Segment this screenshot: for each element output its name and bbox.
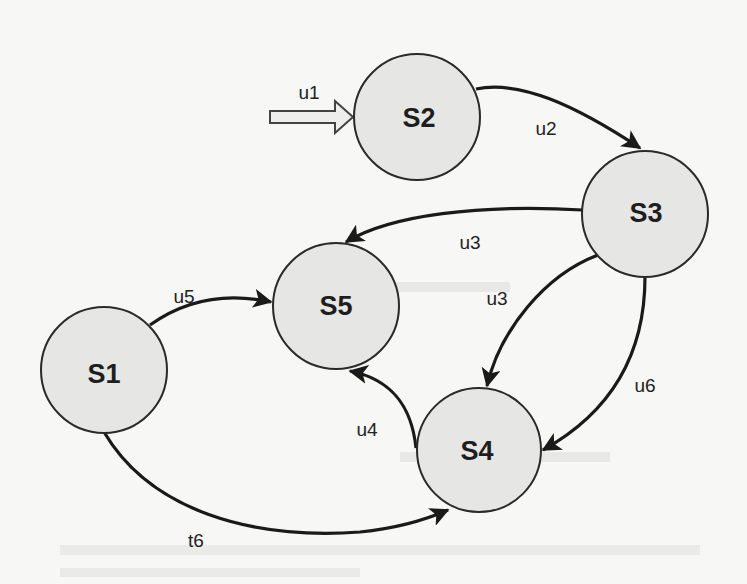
edge-label-u6: u6 xyxy=(634,375,655,396)
edge-label-u4: u4 xyxy=(356,419,378,440)
node-label-s3: S3 xyxy=(629,198,662,228)
edge-s3-s4-u6 xyxy=(543,277,645,450)
edge-label-u3-inner: u3 xyxy=(486,288,507,309)
node-label-s4: S4 xyxy=(460,436,493,466)
node-label-s5: S5 xyxy=(319,291,352,321)
edge-s3-s4-u3 xyxy=(487,255,598,386)
node-s2[interactable]: S2 xyxy=(354,54,480,180)
edge-label-u1: u1 xyxy=(298,82,319,103)
node-label-s2: S2 xyxy=(402,103,435,133)
edge-label-u5: u5 xyxy=(173,286,194,307)
node-s5[interactable]: S5 xyxy=(273,243,399,369)
initial-transition xyxy=(270,101,353,133)
edge-s1-s5 xyxy=(150,298,271,325)
edge-s2-s3 xyxy=(476,87,640,148)
state-diagram: S2 S3 S5 S1 S4 u1 u2 u3 u3 u6 u5 u4 t6 xyxy=(0,0,747,584)
node-label-s1: S1 xyxy=(87,359,120,389)
edge-label-u2: u2 xyxy=(535,118,556,139)
node-s4[interactable]: S4 xyxy=(417,388,541,512)
node-s3[interactable]: S3 xyxy=(582,151,708,277)
edge-s1-s4 xyxy=(104,432,448,533)
node-s1[interactable]: S1 xyxy=(41,307,167,433)
edge-label-t6: t6 xyxy=(188,530,204,551)
hollow-arrow-icon xyxy=(270,101,353,133)
edge-label-u3-top: u3 xyxy=(459,232,480,253)
